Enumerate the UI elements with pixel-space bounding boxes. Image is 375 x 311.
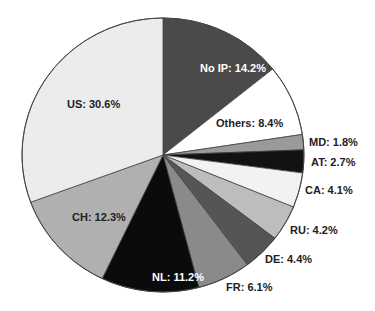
pie-slices [22,18,304,292]
slice-label-ca: CA: 4.1% [305,184,353,196]
slice-label-no-ip: No IP: 14.2% [200,62,266,74]
pie-chart: No IP: 14.2%Others: 8.4%MD: 1.8%AT: 2.7%… [0,0,375,311]
slice-label-md: MD: 1.8% [309,136,358,148]
slice-label-fr: FR: 6.1% [226,281,273,293]
slice-label-ch: CH: 12.3% [72,211,126,223]
slice-label-nl: NL: 11.2% [152,271,204,283]
slice-label-others: Others: 8.4% [216,117,283,129]
slice-label-us: US: 30.6% [67,98,120,110]
slice-label-at: AT: 2.7% [311,156,356,168]
slice-label-ru: RU: 4.2% [290,224,338,236]
slice-label-de: DE: 4.4% [265,253,312,265]
